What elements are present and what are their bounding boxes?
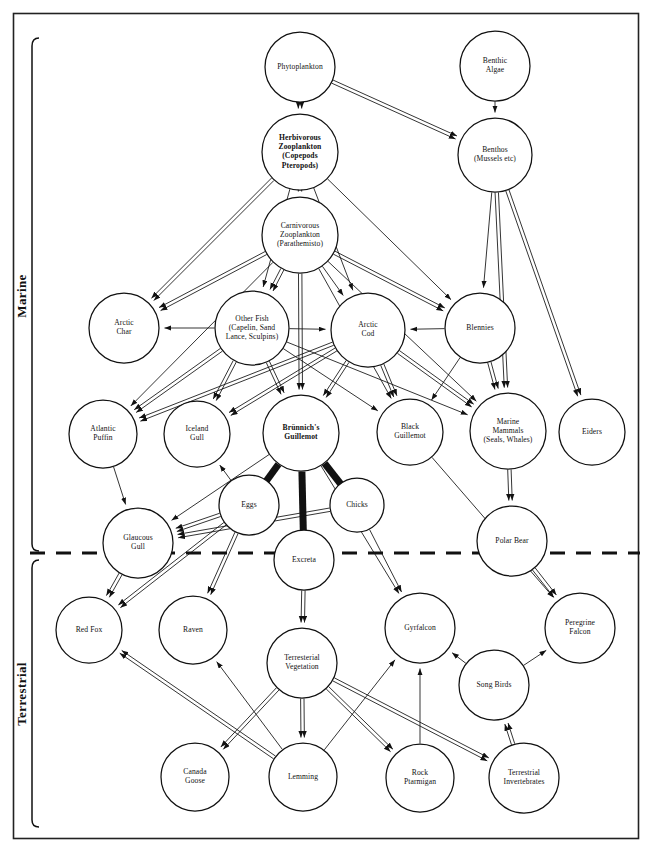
node-label-iceland-gull: Gull — [190, 433, 204, 442]
node-layer: PhytoplanktonBenthicAlgaeHerbivorousZoop… — [56, 31, 625, 813]
edge-terresterial-vegetation-to-canada-goose — [221, 688, 279, 750]
node-label-atlantic-puffin: Atlantic — [90, 424, 116, 433]
edge-benthos-to-blennies — [483, 192, 491, 287]
edge-blennies-to-marine-mammals — [488, 362, 499, 390]
node-label-black-guillemot: Black — [401, 422, 419, 431]
node-chicks[interactable]: Chicks — [330, 478, 384, 532]
edge-brunnichs-guillemot-to-eggs — [265, 464, 278, 482]
edge-terresterial-vegetation-to-rock-ptarmigan — [326, 687, 393, 752]
node-label-other-fish: Lance, Sculpins) — [226, 332, 279, 341]
node-label-terrestrial-invertebrates: Terrestrial — [508, 768, 540, 777]
edge-eggs-to-iceland-gull — [220, 465, 231, 480]
node-label-polar-bear: Polar Bear — [495, 536, 529, 545]
node-label-glaucous-gull: Glaucous — [123, 533, 152, 542]
node-label-chicks: Chicks — [346, 500, 368, 509]
edge-eggs-to-raven — [208, 532, 238, 595]
node-canada-goose[interactable]: CanadaGoose — [161, 743, 229, 811]
node-label-arctic-cod: Cod — [362, 329, 375, 338]
node-label-gyrfalcon: Gyrfalcon — [404, 623, 436, 632]
node-label-brunnichs-guillemot: Guillemot — [284, 432, 318, 441]
node-polar-bear[interactable]: Polar Bear — [477, 506, 547, 576]
node-glaucous-gull[interactable]: GlaucousGull — [103, 508, 173, 578]
node-label-canada-goose: Canada — [183, 767, 207, 776]
node-label-other-fish: (Capelin, Sand — [229, 323, 276, 332]
edge-phytoplankton-to-herbivorous-zooplankton — [298, 103, 301, 109]
node-rock-ptarmigan[interactable]: RockPtarmigan — [386, 744, 454, 812]
node-terresterial-vegetation[interactable]: TerresterialVegetation — [267, 628, 337, 698]
food-web-canvas: PhytoplanktonBenthicAlgaeHerbivorousZoop… — [0, 0, 650, 851]
node-brunnichs-guillemot[interactable]: Brünnich'sGuillemot — [263, 395, 339, 471]
node-label-benthic-algae: Benthic — [483, 56, 508, 65]
node-other-fish[interactable]: Other Fish(Capelin, SandLance, Sculpins) — [215, 291, 289, 365]
node-eiders[interactable]: Eiders — [559, 399, 625, 465]
node-label-peregrine-falcon: Peregrine — [565, 618, 596, 627]
node-label-brunnichs-guillemot: Brünnich's — [283, 423, 320, 432]
edge-phytoplankton-to-benthos — [332, 80, 457, 139]
node-label-arctic-cod: Arctic — [358, 320, 378, 329]
node-label-other-fish: Other Fish — [235, 314, 268, 323]
node-label-herbivorous-zooplankton: Pteropods) — [282, 161, 319, 170]
node-song-birds[interactable]: Song Birds — [459, 650, 529, 720]
edge-song-birds-to-gyrfalcon — [452, 653, 466, 664]
node-label-carnivorous-zooplankton: Zooplankton — [280, 230, 320, 239]
edge-arctic-cod-to-brunnichs-guillemot — [323, 361, 349, 398]
node-label-red-fox: Red Fox — [76, 625, 103, 634]
node-raven[interactable]: Raven — [159, 596, 227, 664]
node-black-guillemot[interactable]: BlackGuillemot — [377, 399, 443, 465]
node-iceland-gull[interactable]: IcelandGull — [164, 401, 230, 467]
terrestrial-zone-label-group: Terrestrial — [14, 662, 29, 726]
node-label-blennies: Blennies — [466, 323, 493, 332]
node-label-phytoplankton: Phytoplankton — [277, 62, 323, 71]
node-eggs[interactable]: Eggs — [219, 475, 279, 535]
terrestrial-zone-bracket — [32, 560, 39, 827]
node-label-rock-ptarmigan: Rock — [412, 768, 429, 777]
node-label-marine-mammals: Mammals — [492, 426, 523, 435]
node-label-terresterial-vegetation: Vegetation — [285, 662, 319, 671]
node-atlantic-puffin[interactable]: AtlanticPuffin — [69, 400, 137, 468]
node-label-eiders: Eiders — [582, 427, 602, 436]
node-label-benthic-algae: Algae — [486, 65, 505, 74]
node-arctic-char[interactable]: ArcticChar — [89, 293, 159, 363]
node-label-benthos: Benthos — [482, 145, 508, 154]
node-blennies[interactable]: Blennies — [445, 293, 515, 363]
node-label-carnivorous-zooplankton: Carnivorous — [281, 221, 320, 230]
node-label-herbivorous-zooplankton: Herbivorous — [279, 133, 321, 142]
node-peregrine-falcon[interactable]: PeregrineFalcon — [545, 593, 615, 663]
edge-terrestrial-invertebrates-to-song-birds — [505, 723, 515, 745]
edge-song-birds-to-peregrine-falcon — [524, 650, 547, 665]
edge-herbivorous-zooplankton-to-blennies — [328, 179, 452, 300]
node-label-herbivorous-zooplankton: Zooplankton — [279, 142, 323, 151]
node-excreta[interactable]: Excreta — [274, 530, 334, 590]
node-lemming[interactable]: Lemming — [269, 743, 337, 811]
node-label-marine-mammals: Marine — [497, 417, 520, 426]
edge-herbivorous-zooplankton-to-carnivorous-zooplankton — [298, 191, 301, 192]
edge-brunnichs-guillemot-to-chicks — [325, 463, 342, 485]
edge-other-fish-to-arctic-cod — [289, 329, 325, 330]
node-phytoplankton[interactable]: Phytoplankton — [265, 32, 335, 102]
node-label-eggs: Eggs — [241, 500, 257, 509]
node-label-canada-goose: Goose — [185, 776, 205, 785]
node-label-glaucous-gull: Gull — [131, 542, 145, 551]
marine-zone-bracket — [32, 38, 39, 551]
edge-brunnichs-guillemot-to-excreta — [302, 471, 303, 532]
node-gyrfalcon[interactable]: Gyrfalcon — [385, 593, 455, 663]
node-herbivorous-zooplankton[interactable]: HerbivorousZooplankton(CopepodsPteropods… — [262, 114, 338, 190]
node-benthic-algae[interactable]: BenthicAlgae — [460, 31, 530, 101]
node-label-black-guillemot: Guillemot — [394, 431, 426, 440]
edge-carnivorous-zooplankton-to-other-fish — [270, 268, 284, 291]
node-arctic-cod[interactable]: ArcticCod — [331, 293, 405, 367]
node-label-arctic-char: Arctic — [114, 318, 134, 327]
node-label-carnivorous-zooplankton: (Parathemisto) — [277, 239, 323, 248]
node-terrestrial-invertebrates[interactable]: TerrestrialInvertebrates — [489, 743, 559, 813]
node-red-fox[interactable]: Red Fox — [56, 597, 122, 663]
node-label-peregrine-falcon: Falcon — [569, 627, 590, 636]
edge-chicks-to-gyrfalcon — [370, 529, 402, 591]
node-marine-mammals[interactable]: MarineMammals(Seals, Whales) — [470, 393, 546, 469]
edge-herbivorous-zooplankton-to-arctic-char — [151, 178, 274, 301]
node-carnivorous-zooplankton[interactable]: CarnivorousZooplankton(Parathemisto) — [262, 197, 338, 273]
node-label-atlantic-puffin: Puffin — [93, 433, 113, 442]
node-benthos[interactable]: Benthos(Mussels etc) — [458, 118, 532, 192]
edge-excreta-to-terresterial-vegetation — [301, 590, 305, 622]
node-label-terresterial-vegetation: Terresterial — [284, 653, 320, 662]
edge-glaucous-gull-to-red-fox — [106, 573, 122, 597]
